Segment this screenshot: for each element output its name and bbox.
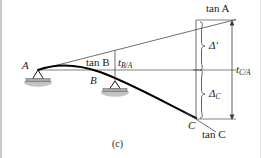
brace-delta-c [200,70,205,118]
label-point-a: A [22,60,29,71]
label-point-c: C [188,120,195,131]
tangent-line-at-a [38,20,236,71]
t-ca-sub: C/A [239,68,251,77]
label-t-ca: tC/A [236,64,251,76]
label-point-b: B [90,75,97,86]
figure-caption: (c) [112,139,123,149]
t-ba-sub: B/A [121,61,132,70]
brace-delta-prime [200,22,205,70]
support-pin-a [24,70,52,87]
label-tan-b: tan B [86,57,110,68]
label-delta-prime: Δ' [209,40,218,51]
label-t-ba: tB/A [118,57,132,69]
delta-c-sub: C [215,92,220,101]
label-tan-c: tan C [202,129,226,140]
label-delta-c: ΔC [209,88,220,100]
label-tan-a: tan A [206,3,230,14]
